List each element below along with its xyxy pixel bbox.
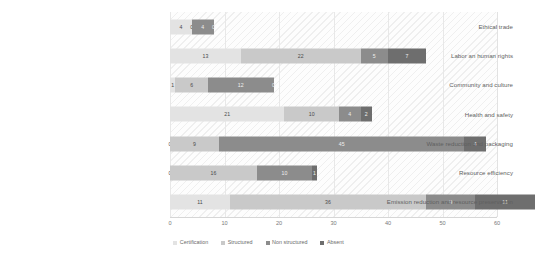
bar-segment[interactable]: 6 [175, 78, 208, 93]
bar-segment-value: 36 [325, 200, 331, 205]
category-label: Waste reduction and packaging [349, 141, 517, 147]
legend-item[interactable]: Certification [173, 240, 208, 245]
bar-segment[interactable]: 10 [284, 107, 339, 122]
category-label: Community and culture [349, 82, 517, 88]
chart-legend: CertificationStructuredNon structuredAbs… [0, 240, 517, 245]
legend-item[interactable]: Structured [221, 240, 252, 245]
bar-segment-value: 4 [179, 24, 182, 29]
bar-segment[interactable]: 12 [208, 78, 273, 93]
category-label: Resource efficiency [349, 170, 517, 176]
bar-segment-value: 9 [193, 141, 196, 146]
legend-label: Structured [228, 240, 253, 245]
x-tick-label-20: 20 [276, 221, 282, 227]
bar-segment-value: 21 [224, 112, 230, 117]
bar-segment[interactable]: 13 [170, 48, 241, 63]
bar-segment-value: 45 [339, 141, 345, 146]
legend-swatch-icon [173, 241, 177, 245]
bar-segment-value: 4 [201, 24, 204, 29]
bar-segment-value: 10 [309, 112, 315, 117]
bar-segment[interactable]: 4 [192, 19, 214, 34]
category-label: Emission reduction and resource preserva… [349, 199, 517, 205]
legend-label: Absent [327, 240, 344, 245]
bar-segment[interactable]: 9 [170, 136, 219, 151]
x-tick-label-40: 40 [385, 221, 391, 227]
bar-segment[interactable]: 11 [170, 195, 230, 210]
bar-segment[interactable]: 21 [170, 107, 284, 122]
bar-segment-value: 1 [313, 170, 316, 175]
bar-segment-value: 6 [190, 83, 193, 88]
bar-track: 211042 [170, 107, 372, 122]
legend-swatch-icon [221, 241, 225, 245]
bar-segment-value: 10 [281, 170, 287, 175]
x-tick-label-30: 30 [330, 221, 336, 227]
bar-track: 016101 [170, 166, 317, 181]
x-axis-line [170, 217, 497, 218]
bar-track: 4040 [170, 19, 214, 34]
x-tick-label-10: 10 [221, 221, 227, 227]
legend-label: Certification [180, 240, 208, 245]
bar-segment-value: 22 [298, 53, 304, 58]
bar-segment[interactable]: 22 [241, 48, 361, 63]
bar-segment-value: 13 [202, 53, 208, 58]
bar-segment[interactable]: 16 [170, 166, 257, 181]
bar-track: 16120 [170, 78, 274, 93]
x-tick-label-60: 60 [494, 221, 500, 227]
x-tick-label-0: 0 [168, 221, 171, 227]
category-label: Health and safety [349, 112, 517, 118]
bar-segment[interactable]: 4 [170, 19, 192, 34]
legend-swatch-icon [266, 241, 270, 245]
category-label: Labor an human rights [349, 53, 517, 59]
x-tick-label-50: 50 [439, 221, 445, 227]
legend-label: Non structured [272, 240, 307, 245]
bar-segment-value: 11 [197, 200, 203, 205]
legend-swatch-icon [320, 241, 324, 245]
bar-segment-value: 16 [211, 170, 217, 175]
legend-item[interactable]: Non structured [266, 240, 308, 245]
bar-segment[interactable]: 1 [312, 166, 317, 181]
bar-segment-value: 1 [171, 83, 174, 88]
bar-segment-value: 12 [238, 83, 244, 88]
category-label: Ethical trade [349, 24, 517, 30]
bar-segment[interactable]: 10 [257, 166, 312, 181]
legend-item[interactable]: Absent [320, 240, 343, 245]
